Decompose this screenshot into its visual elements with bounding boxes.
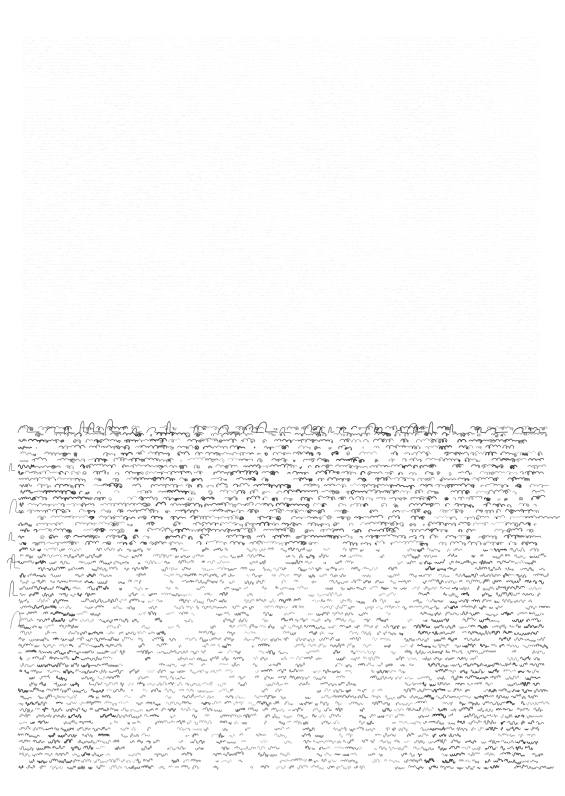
- upper-faint-plate: [21, 32, 541, 401]
- page-canvas: [0, 0, 565, 796]
- lower-dark-plate: [2, 404, 560, 792]
- upper-plate-canvas: [21, 32, 541, 401]
- lower-plate-canvas: [2, 404, 560, 792]
